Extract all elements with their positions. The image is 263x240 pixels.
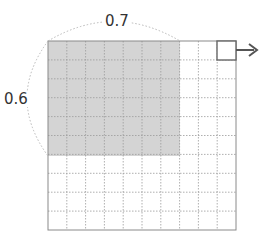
height-label: 0.6 [4,92,28,107]
height-brace-arc [27,41,48,156]
width-label: 0.7 [103,14,131,29]
unit-square-marker [217,41,236,60]
area-model-diagram [0,0,263,240]
shaded-region [48,41,180,156]
